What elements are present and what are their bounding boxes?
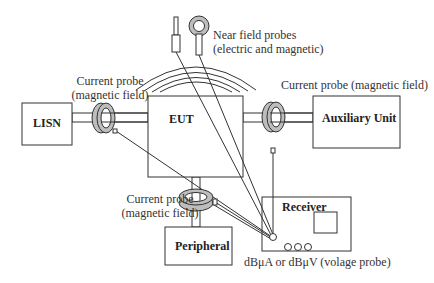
- bottom-probe-label-line1: Current probe: [110, 192, 210, 206]
- receiver-label: Receiver: [282, 200, 327, 215]
- loop-probe-icon: [189, 16, 209, 55]
- receiver-units-annotation: dBμA or dBμV (volage probe): [244, 255, 391, 269]
- eut-box: [148, 96, 243, 177]
- bottom-probe-label-line2: (magnetic field): [110, 206, 210, 220]
- near-field-label-line2: (electric and magnetic): [213, 42, 324, 56]
- bottom-probe-annotation: Current probe (magnetic field): [110, 192, 210, 220]
- rod-probe-icon: [172, 17, 180, 52]
- eut-label: EUT: [169, 112, 194, 127]
- peripheral-label: Peripheral: [175, 239, 230, 254]
- left-probe-label-line1: Current probe: [50, 74, 170, 88]
- display-icon: [314, 212, 337, 233]
- near-field-label-line1: Near field probes: [213, 28, 324, 42]
- left-probe-annotation: Current probe (magnetic field): [50, 74, 170, 102]
- near-field-annotation: Near field probes (electric and magnetic…: [213, 28, 324, 56]
- auxiliary-unit-label: Auxiliary Unit: [322, 111, 396, 126]
- toroid-clamp-icon: [262, 102, 313, 153]
- lisn-label: LISN: [33, 116, 61, 131]
- receiver-input-port: [270, 234, 277, 241]
- knob-icon: [285, 244, 312, 251]
- left-probe-label-line2: (magnetic field): [50, 88, 170, 102]
- right-probe-annotation: Current probe (magnetic field): [281, 78, 428, 92]
